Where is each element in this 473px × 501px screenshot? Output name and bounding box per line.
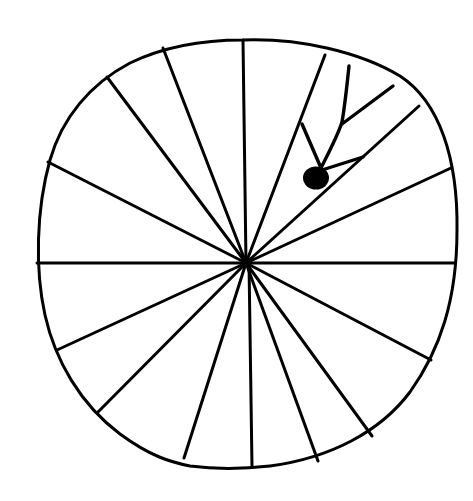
spoke-left-lower: [57, 263, 246, 350]
spokes: [37, 40, 455, 467]
wheel-outline: [38, 40, 457, 468]
spoke-top-left-1: [107, 77, 246, 263]
spoke-bottom: [249, 263, 252, 467]
spoke-bottom-right-1: [246, 263, 372, 436]
figure-branch: [342, 86, 393, 124]
spoke-right-lower: [246, 263, 431, 360]
figure-stem: [321, 66, 349, 168]
figure-left-stroke: [302, 124, 321, 168]
spoke-top-right-2: [246, 106, 419, 263]
spoke-top: [243, 40, 246, 263]
spoke-top-left-2: [163, 48, 246, 263]
spoke-bottom-right-2: [246, 263, 318, 461]
wheel-drawing: [0, 0, 473, 501]
spoke-left-upper: [48, 162, 246, 263]
